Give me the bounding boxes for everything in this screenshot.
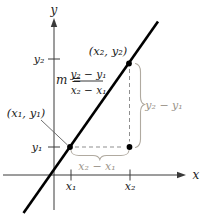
slope-diagram: x y y₂ − y₁ x₂ − x₁ y₂ y₁ x₁ x₂ (x₂, y₂)…: [0, 0, 207, 220]
rise-brace: [136, 64, 145, 148]
run-measure-label: x₂ − x₁: [78, 160, 115, 173]
y-axis-arrowhead-icon: [51, 18, 57, 27]
slope-formula-numerator: y₂ − y₁: [70, 68, 107, 80]
point-p2-dot: [126, 61, 132, 67]
slope-formula-denominator: x₂ − x₁: [71, 84, 107, 96]
y1-tick-label: y₁: [31, 141, 43, 154]
x-axis-label: x: [193, 168, 200, 182]
point-p2-label: (x₂, y₂): [89, 44, 128, 58]
point-p1-dot: [67, 144, 73, 150]
run-brace: [71, 151, 129, 160]
slope-diagram-canvas: x y y₂ − y₁ x₂ − x₁ y₂ y₁ x₁ x₂ (x₂, y₂)…: [0, 0, 207, 220]
x-axis-arrowhead-icon: [177, 172, 186, 178]
x2-tick-label: x₂: [125, 180, 136, 193]
y-axis-label: y: [50, 3, 58, 17]
rise-measure-label: y₂ − y₁: [144, 99, 182, 112]
x1-tick-label: x₁: [66, 180, 77, 193]
point-p1-label: (x₁, y₁): [7, 106, 46, 120]
y2-tick-label: y₂: [33, 53, 45, 66]
point-corner-dot: [127, 144, 133, 150]
